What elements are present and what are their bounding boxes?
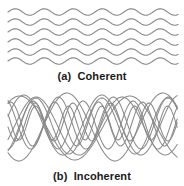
incoherent-wave-group	[8, 93, 177, 161]
incoherent-wave-panel	[0, 83, 184, 167]
incoherent-wave-plot	[0, 83, 184, 167]
caption-incoherent: (b) Incoherent	[0, 170, 184, 183]
wave-line	[8, 9, 178, 15]
wave-line	[8, 39, 178, 45]
caption-coherent: (a) Coherent	[0, 70, 184, 83]
wave-figure: (a) Coherent (b) Incoherent	[0, 0, 184, 186]
coherent-wave-plot	[0, 0, 184, 66]
wave-line	[8, 106, 177, 140]
wave-line	[8, 29, 178, 35]
wave-line	[8, 58, 178, 64]
wave-line	[8, 19, 178, 25]
coherent-wave-panel	[0, 0, 184, 66]
coherent-wave-group	[8, 9, 178, 64]
wave-line	[8, 49, 178, 55]
